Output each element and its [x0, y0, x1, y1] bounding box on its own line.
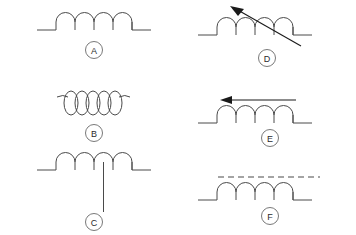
adjust-arrow-horizontal-icon: [220, 96, 296, 104]
symbol-label: F: [267, 212, 273, 222]
arrow-shaft: [236, 9, 301, 46]
coil-loop: [75, 91, 89, 115]
symbol-c-drawing: C: [0, 150, 178, 235]
symbol-label: A: [91, 46, 97, 56]
inductor-symbols-diagram: A D: [0, 0, 356, 235]
coil-loop: [108, 91, 122, 115]
label-badge-a: A: [86, 42, 103, 59]
symbol-cell-c: C: [0, 150, 178, 235]
label-badge-b: B: [86, 125, 103, 142]
arrow-head: [220, 96, 232, 104]
symbol-cell-a: A: [0, 0, 178, 78]
label-badge-d: D: [259, 50, 276, 67]
symbol-label: D: [264, 54, 271, 64]
symbol-e-drawing: E: [178, 78, 356, 150]
label-badge-c: C: [86, 214, 103, 231]
arrow-head: [230, 6, 244, 16]
symbol-cell-d: D: [178, 0, 356, 78]
label-badge-e: E: [262, 130, 279, 147]
label-badge-f: F: [262, 208, 279, 225]
inductor-b-winding: [57, 91, 130, 115]
symbol-label: E: [267, 134, 273, 144]
symbol-cell-f: F: [178, 150, 356, 235]
symbol-label: B: [91, 129, 97, 139]
variable-arrow-diagonal-icon: [230, 6, 301, 46]
inductor-a-winding: [37, 13, 151, 31]
coil-arcs: [217, 106, 293, 124]
symbol-d-drawing: D: [178, 0, 356, 78]
lead-left: [57, 96, 68, 98]
coil-arcs: [56, 153, 132, 171]
symbol-a-drawing: A: [0, 0, 178, 78]
symbol-cell-b: B: [0, 78, 178, 150]
inductor-f-winding: [198, 183, 312, 201]
coil-arcs: [217, 183, 293, 201]
symbol-label: C: [91, 218, 98, 228]
symbol-cell-e: E: [178, 78, 356, 150]
coil-loop: [86, 91, 100, 115]
inductor-c-winding: [37, 153, 151, 213]
coil-loop: [97, 91, 111, 115]
coil-arcs: [56, 13, 132, 31]
inductor-e-winding: [198, 106, 312, 124]
symbol-b-drawing: B: [0, 78, 178, 150]
coil-loop: [64, 91, 78, 115]
symbol-f-drawing: F: [178, 150, 356, 235]
